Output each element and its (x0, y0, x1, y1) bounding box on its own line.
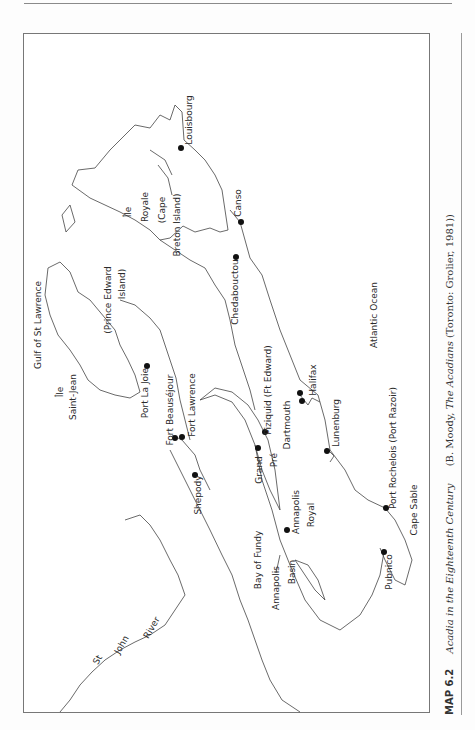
label-shepody: Shepody (194, 475, 203, 514)
label-basin: Basin (288, 560, 297, 585)
label-pre: Pré (270, 453, 279, 467)
label-atlantic-ocean: Atlantic Ocean (370, 282, 379, 348)
map-title: Acadia in the Eighteenth Century (444, 484, 455, 654)
source-prefix: (B. Moody, (444, 409, 455, 466)
top-rule (24, 3, 452, 4)
label-royal: Royal (307, 503, 316, 528)
label-ile-royale: Île (124, 207, 133, 218)
label-fort-beausejour: Fort Beauséjour (166, 374, 175, 445)
halifax-dot (297, 390, 303, 396)
source-suffix: (Toronto: Grolier, 1981)) (444, 214, 455, 341)
label-bay-of-fundy: Bay of Fundy (254, 531, 263, 590)
label-saint-jean: Saint-Jean (69, 374, 78, 420)
label-port-rochelois: Port Rochelois (Port Razoir) (389, 387, 398, 509)
label-pubnico: Pubnico (385, 554, 394, 589)
label-gulf-of-st-lawrence: Gulf of St Lawrence (34, 281, 43, 369)
label-halifax: Halifax (309, 364, 318, 395)
label-dartmouth: Dartmouth (283, 401, 292, 450)
label-ile-saint-jean: Île (56, 387, 65, 398)
map-caption: MAP 6.2 Acadia in the Eighteenth Century… (444, 214, 455, 715)
label-grand: Grand (255, 456, 264, 484)
label-annapolis-royal: Annapolis (292, 490, 301, 534)
label-cape-sable: Cape Sable (410, 485, 419, 536)
louisbourg-dot (178, 145, 184, 151)
label-cape: (Cape (158, 197, 167, 224)
lunenburg-dot (324, 448, 330, 454)
label-louisbourg: Louisbourg (185, 95, 194, 144)
caption-rule (461, 33, 462, 715)
label-island: Island) (118, 269, 127, 299)
label-breton-island: Breton Island) (173, 193, 182, 256)
map-frame (23, 33, 430, 713)
label-piziquid: Piziquid (Ft Edward) (264, 345, 273, 435)
label-port-la-joie: Port La Joie (141, 368, 150, 418)
annapolis-royal-dot (284, 527, 290, 533)
source-book: The Acadians (444, 341, 455, 409)
canso-dot (238, 219, 244, 225)
label-prince-edward: (Prince Edward (104, 266, 113, 334)
label-annapolis-basin: Annapolis (272, 566, 281, 610)
grand-pre-dot (255, 445, 261, 451)
label-chedabouctou: Chedabouctou (231, 259, 240, 324)
fort-lawrence-dot (179, 434, 185, 440)
label-lunenburg: Lunenburg (332, 399, 341, 447)
label-canso: Canso (234, 189, 243, 217)
label-royale: Royale (141, 192, 150, 222)
label-fort-lawrence: Fort Lawrence (188, 373, 197, 437)
map-number: MAP 6.2 (444, 669, 455, 715)
dartmouth-dot (299, 398, 305, 404)
